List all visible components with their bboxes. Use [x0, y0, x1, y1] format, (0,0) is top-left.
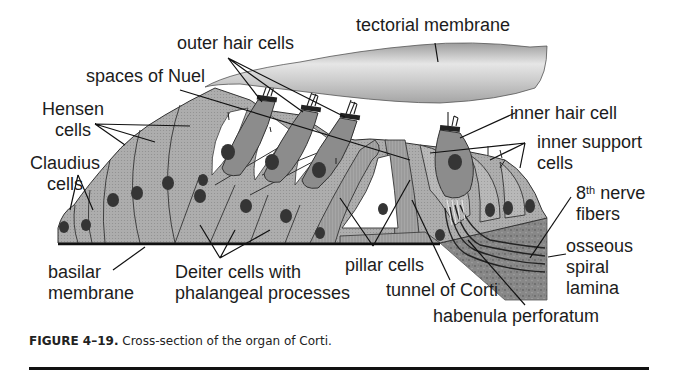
label-basilar-membrane: basilar membrane: [48, 262, 134, 304]
label-inner-support-cells: inner support cells: [537, 132, 642, 174]
caption-text: Cross-section of the organ of Corti.: [118, 334, 331, 348]
label-habenula-perforatum: habenula perforatum: [433, 306, 599, 327]
label-outer-hair-cells: outer hair cells: [177, 33, 294, 54]
label-spaces-of-nuel: spaces of Nuel: [86, 66, 205, 87]
label-hensen-cells: Hensen cells: [38, 99, 108, 141]
organ-of-corti-figure: tectorial membrane outer hair cells spac…: [0, 0, 676, 372]
figure-caption: FIGURE 4–19. Cross-section of the organ …: [29, 334, 332, 348]
label-inner-hair-cell: inner hair cell: [510, 103, 617, 124]
label-claudius-cells: Claudius cells: [27, 153, 103, 195]
caption-rule-divider: [29, 367, 649, 370]
label-tectorial-membrane: tectorial membrane: [356, 15, 510, 36]
label-tunnel-of-corti: tunnel of Corti: [386, 280, 498, 301]
label-8th-nerve-fibers: 8th nerve fibers: [576, 183, 645, 225]
label-deiter-cells: Deiter cells with phalangeal processes: [175, 262, 350, 304]
label-pillar-cells: pillar cells: [345, 255, 424, 276]
label-osseous-spiral-lamina: osseous spiral lamina: [566, 236, 633, 299]
figure-number: FIGURE 4–19.: [29, 334, 118, 348]
